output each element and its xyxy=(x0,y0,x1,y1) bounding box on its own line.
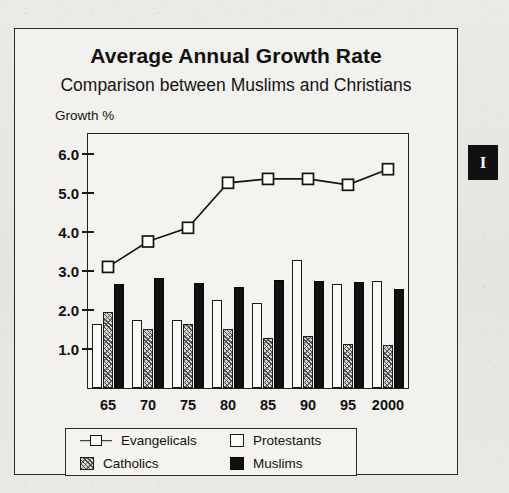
legend-item-protestants: Protestants xyxy=(216,433,358,448)
evangelicals-marker-75 xyxy=(183,222,194,233)
margin-tab-glyph: I xyxy=(468,145,498,180)
legend-label: Evangelicals xyxy=(121,433,197,448)
chart-subtitle: Comparison between Muslims and Christian… xyxy=(15,75,457,96)
y-tick-label: 5.0 xyxy=(58,184,79,201)
legend-label: Protestants xyxy=(253,433,321,448)
evangelicals-marker-90 xyxy=(303,173,314,184)
hatched-square-icon xyxy=(80,457,94,470)
evangelicals-marker-2000 xyxy=(383,164,394,175)
y-tick-label: 3.0 xyxy=(58,262,79,279)
y-tick-label: 4.0 xyxy=(58,223,79,240)
legend-label: Muslims xyxy=(253,456,303,471)
y-axis-title: Growth % xyxy=(55,108,114,123)
y-tick-label: 1.0 xyxy=(58,340,79,357)
legend-label: Catholics xyxy=(103,456,159,471)
figure-frame: Average Annual Growth Rate Comparison be… xyxy=(14,28,458,475)
black-square-icon xyxy=(230,457,244,470)
plot-inner: 1.02.03.04.05.06.0 657075808590952000 xyxy=(88,134,408,388)
line-marker-icon xyxy=(80,434,112,447)
x-tick-label: 95 xyxy=(340,397,356,413)
chart-title: Average Annual Growth Rate xyxy=(15,44,457,68)
x-tick-label: 85 xyxy=(260,397,276,413)
x-tick-label: 70 xyxy=(140,397,156,413)
legend-item-catholics: Catholics xyxy=(66,456,216,471)
x-tick-label: 2000 xyxy=(372,397,404,413)
white-square-icon xyxy=(230,434,244,447)
y-tick-label: 6.0 xyxy=(58,145,79,162)
plot-area: 1.02.03.04.05.06.0 657075808590952000 xyxy=(87,133,409,389)
evangelicals-marker-65 xyxy=(103,261,114,272)
legend-item-evangelicals: Evangelicals xyxy=(66,433,216,448)
evangelicals-marker-80 xyxy=(223,177,234,188)
margin-tab: I xyxy=(468,145,498,180)
evangelicals-marker-85 xyxy=(263,173,274,184)
x-tick-label: 65 xyxy=(100,397,116,413)
x-tick-label: 80 xyxy=(220,397,236,413)
y-tick-label: 2.0 xyxy=(58,301,79,318)
x-tick-label: 75 xyxy=(180,397,196,413)
x-tick-label: 90 xyxy=(300,397,316,413)
evangelicals-line-series xyxy=(88,134,408,388)
chart-legend: Evangelicals Protestants Catholics Musli… xyxy=(65,428,357,476)
legend-item-muslims: Muslims xyxy=(216,456,358,471)
evangelicals-marker-70 xyxy=(143,236,154,247)
evangelicals-marker-95 xyxy=(343,179,354,190)
